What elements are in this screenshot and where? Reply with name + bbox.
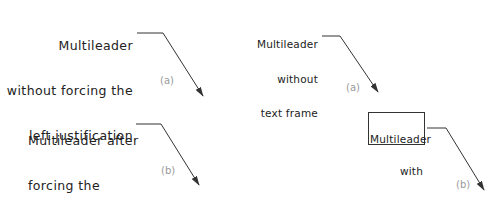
text-line: forcing the [28, 178, 139, 193]
multileader-text-left-b: Multileader after forcing the left justi… [28, 103, 139, 197]
multileader-text-right-a: Multileader without text frame [257, 16, 318, 143]
text-line: Multileader [257, 39, 318, 51]
text-line: without [257, 74, 318, 86]
text-line: without forcing the [7, 83, 133, 98]
label-left-a: (a) [160, 75, 174, 86]
label-right-b: (b) [456, 179, 470, 190]
text-line: Multileader after [28, 133, 139, 148]
text-line: with [370, 166, 423, 177]
label-right-a: (a) [346, 82, 360, 93]
text-line: Multileader [7, 38, 133, 53]
leader-left-a [137, 33, 203, 96]
multileader-diagram: Multileader without forcing the left jus… [0, 0, 496, 197]
multileader-text-right-b-framed: Multileader with text frame [368, 112, 425, 145]
text-line: Multileader [370, 134, 423, 145]
text-line: text frame [257, 108, 318, 120]
label-left-b: (b) [161, 165, 175, 176]
